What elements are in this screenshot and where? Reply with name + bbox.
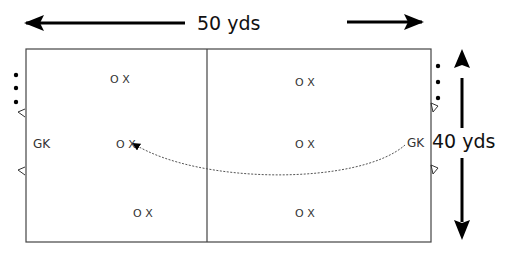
field-boundary <box>26 49 431 242</box>
arrowhead-up-icon <box>454 49 470 68</box>
player-pair: O X <box>110 73 130 86</box>
player-pair: O X <box>295 207 315 220</box>
field <box>26 49 431 242</box>
ball-icon <box>436 96 440 100</box>
pass-path-arrow <box>134 144 405 175</box>
height-label: 40 yds <box>432 130 495 152</box>
player-pair: O X <box>116 138 136 151</box>
ball-dots-left <box>14 73 18 104</box>
player-pair: O X <box>295 138 315 151</box>
cone-icon <box>18 167 25 175</box>
cone-icon <box>18 109 25 117</box>
width-label: 50 yds <box>197 12 260 34</box>
width-dimension: 50 yds <box>24 12 424 34</box>
player-pair: O X <box>133 207 153 220</box>
cone-icon <box>431 103 438 112</box>
drill-diagram: 50 yds 40 yds GK GK O X O X O X O X O X <box>0 0 522 254</box>
arrowhead-down-icon <box>454 220 470 240</box>
goalkeeper-left: GK <box>33 137 51 151</box>
ball-icon <box>436 80 440 84</box>
cone-icon <box>431 165 438 174</box>
ball-icon <box>14 100 18 104</box>
player-pair: O X <box>295 76 315 89</box>
ball-icon <box>436 64 440 68</box>
goalkeeper-right: GK <box>407 136 425 150</box>
height-dimension: 40 yds <box>432 49 495 240</box>
ball-dots-right <box>436 64 440 100</box>
ball-icon <box>14 86 18 90</box>
ball-icon <box>14 73 18 77</box>
cones-left <box>18 109 25 175</box>
